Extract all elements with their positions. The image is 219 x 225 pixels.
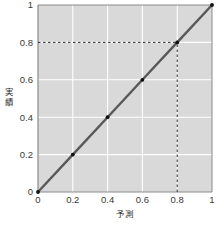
x-tick-label: 0.2 <box>66 194 79 205</box>
y-axis-title: 実績 <box>5 87 14 107</box>
y-axis-title-char: 績 <box>5 97 14 107</box>
y-tick-label: 1 <box>28 0 33 10</box>
x-tick-label: 0.6 <box>136 194 149 205</box>
y-tick-label: 0.6 <box>20 74 33 85</box>
y-tick-label: 0.2 <box>20 149 33 160</box>
data-point-marker <box>141 78 145 82</box>
y-axis-title-char: 実 <box>5 87 14 97</box>
x-tick-label: 1 <box>209 194 214 205</box>
x-tick-label: 0.4 <box>101 194 114 205</box>
x-tick-label: 0.8 <box>171 194 184 205</box>
chart-canvas: 00.20.40.60.81 00.20.40.60.81 予測 実績 <box>0 0 219 225</box>
x-tick-label: 0 <box>35 194 40 205</box>
x-axis-title: 予測 <box>116 209 134 219</box>
y-tick-label: 0 <box>28 186 33 197</box>
data-point-marker <box>210 3 214 7</box>
chart-container: 00.20.40.60.81 00.20.40.60.81 予測 実績 <box>0 0 219 225</box>
data-point-marker <box>71 153 75 157</box>
y-tick-label: 0.8 <box>20 37 33 48</box>
y-tick-label: 0.4 <box>20 112 33 123</box>
data-point-marker <box>175 41 179 45</box>
data-point-marker <box>106 115 110 119</box>
